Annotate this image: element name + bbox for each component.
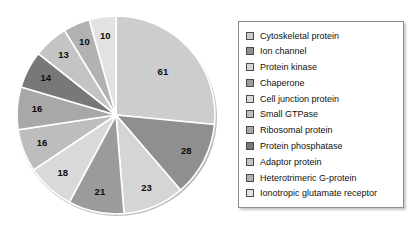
legend-item[interactable]: Chaperone [246,75,399,90]
pie-data-label: 21 [95,186,106,197]
pie-data-label: 16 [32,103,43,114]
legend-item[interactable]: Ionotropic glutamate receptor [246,186,399,201]
legend-item-label: Ionotropic glutamate receptor [260,188,377,198]
legend-item-label: Ion channel [260,46,307,56]
legend-item-label: Small GTPase [260,109,318,119]
pie-chart-svg: 6128232118161614131010 [0,0,232,229]
legend-color-swatch [246,158,254,166]
pie-data-label: 10 [79,36,90,47]
legend-item-label: Cell junction protein [260,94,339,104]
legend-item[interactable]: Small GTPase [246,107,399,122]
legend-item-label: Ribosomal protein [260,125,333,135]
legend-item-list: Cytoskeletal proteinIon channelProtein k… [246,28,399,201]
legend-item-label: Heterotrimeric G-protein [260,173,357,183]
legend-color-swatch [246,95,254,103]
legend-color-swatch [246,110,254,118]
legend-color-swatch [246,126,254,134]
legend-item[interactable]: Cytoskeletal protein [246,28,399,43]
legend-color-swatch [246,174,254,182]
legend-item-label: Adaptor protein [260,157,322,167]
legend-item[interactable]: Protein phosphatase [246,139,399,154]
pie-data-label: 16 [37,137,48,148]
legend-color-swatch [246,47,254,55]
pie-data-label: 23 [141,182,152,193]
pie-chart-figure: 6128232118161614131010 Cytoskeletal prot… [0,0,410,229]
legend-item[interactable]: Ion channel [246,44,399,59]
pie-data-label: 18 [57,167,68,178]
legend-item-label: Protein kinase [260,62,317,72]
legend-item[interactable]: Adaptor protein [246,154,399,169]
legend-color-swatch [246,189,254,197]
legend-color-swatch [246,32,254,40]
pie-data-label: 61 [158,66,169,77]
legend-item-label: Chaperone [260,78,305,88]
pie-data-label: 13 [58,49,69,60]
legend-color-swatch [246,63,254,71]
pie-data-label: 28 [181,145,192,156]
legend-item[interactable]: Protein kinase [246,60,399,75]
legend-item[interactable]: Heterotrimeric G-protein [246,170,399,185]
legend-item[interactable]: Ribosomal protein [246,123,399,138]
legend-item-label: Protein phosphatase [260,141,343,151]
pie-chart-plot-area: 6128232118161614131010 [0,0,232,229]
legend-color-swatch [246,142,254,150]
chart-legend: Cytoskeletal proteinIon channelProtein k… [238,21,404,208]
legend-item-label: Cytoskeletal protein [260,31,339,41]
legend-item[interactable]: Cell junction protein [246,91,399,106]
pie-slice-group [17,16,215,214]
pie-data-label: 14 [40,72,51,83]
pie-data-label: 10 [100,30,111,41]
legend-color-swatch [246,79,254,87]
